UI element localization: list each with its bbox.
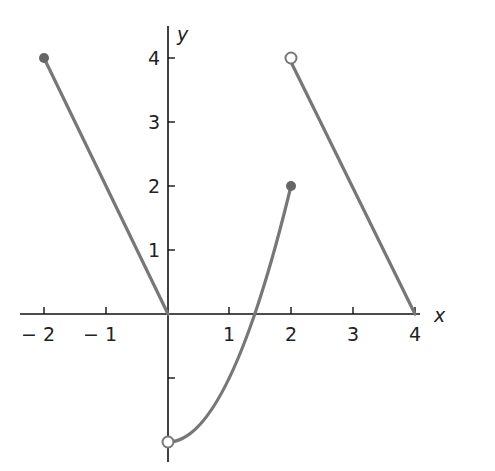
closed-endpoint-parabola <box>286 181 296 191</box>
svg-text:3: 3 <box>148 111 160 133</box>
x-axis-label: x <box>433 304 446 326</box>
svg-text:1: 1 <box>148 239 160 261</box>
y-tick-labels: 1 2 3 4 <box>148 47 160 261</box>
open-endpoint-right <box>286 53 297 64</box>
svg-text:2: 2 <box>148 175 160 197</box>
segment-right <box>291 62 415 314</box>
piecewise-function-graph: − 2 − 1 1 2 3 4 1 2 3 4 x y <box>0 0 495 471</box>
svg-text:− 1: − 1 <box>83 323 117 345</box>
svg-text:4: 4 <box>148 47 160 69</box>
y-ticks <box>168 58 175 442</box>
x-ticks <box>44 307 415 314</box>
closed-endpoint-left <box>39 53 49 63</box>
svg-text:3: 3 <box>347 323 359 345</box>
open-endpoint-parabola <box>163 437 174 448</box>
svg-text:4: 4 <box>409 323 421 345</box>
svg-text:2: 2 <box>285 323 297 345</box>
svg-text:1: 1 <box>223 323 235 345</box>
curves <box>44 58 415 442</box>
y-axis-label: y <box>176 23 189 45</box>
x-tick-labels: − 2 − 1 1 2 3 4 <box>21 323 421 345</box>
svg-text:− 2: − 2 <box>21 323 55 345</box>
